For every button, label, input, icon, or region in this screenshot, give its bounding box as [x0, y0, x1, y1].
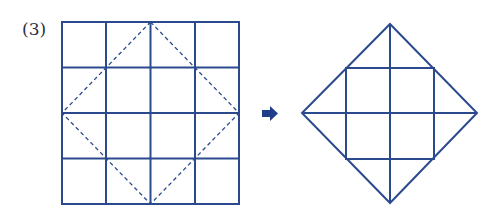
right-figure: [302, 24, 477, 203]
diagram-canvas: [0, 0, 503, 219]
left-figure: [62, 22, 239, 204]
right-arrow-icon: [262, 106, 278, 121]
